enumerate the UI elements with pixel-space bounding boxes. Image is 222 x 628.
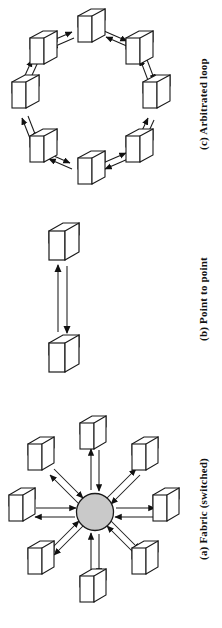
caption-arbitrated-loop: (c) Arbitrated loop <box>186 0 220 208</box>
fabric-node <box>28 541 54 574</box>
fabric-node <box>153 488 179 521</box>
p2p-node-top <box>49 223 79 260</box>
fabric-node <box>132 541 158 574</box>
fabric-node <box>132 437 158 470</box>
p2p-links <box>58 265 67 333</box>
loop-node <box>78 151 105 184</box>
fabric-switch-hub <box>77 494 114 531</box>
p2p-node-bottom <box>49 335 79 372</box>
loop-node <box>126 129 153 162</box>
fabric-node <box>9 488 35 521</box>
caption-point-to-point: (b) Point to point <box>186 208 220 390</box>
caption-point-to-point-text: (b) Point to point <box>197 257 209 341</box>
fabric-node <box>80 416 106 449</box>
caption-arbitrated-loop-text: (c) Arbitrated loop <box>197 58 209 150</box>
panel-arbitrated-loop: (c) Arbitrated loop <box>0 0 222 208</box>
loop-node <box>30 129 57 162</box>
loop-node <box>12 75 39 108</box>
loop-node <box>126 31 153 64</box>
panel-fabric-switched: (a) Fabric (switched) <box>0 390 222 628</box>
loop-nodes <box>12 9 170 184</box>
loop-node <box>30 31 57 64</box>
caption-fabric-switched: (a) Fabric (switched) <box>186 390 220 628</box>
loop-node <box>143 75 170 108</box>
loop-node <box>78 9 105 42</box>
panel-point-to-point: (b) Point to point <box>0 208 222 390</box>
caption-fabric-switched-text: (a) Fabric (switched) <box>197 458 209 560</box>
figure-page: (c) Arbitrated loop <box>0 0 222 628</box>
fabric-switched-diagram <box>0 390 180 628</box>
point-to-point-diagram <box>0 208 180 390</box>
fabric-node <box>28 437 54 470</box>
fabric-node <box>80 569 106 602</box>
arbitrated-loop-diagram <box>0 0 180 208</box>
